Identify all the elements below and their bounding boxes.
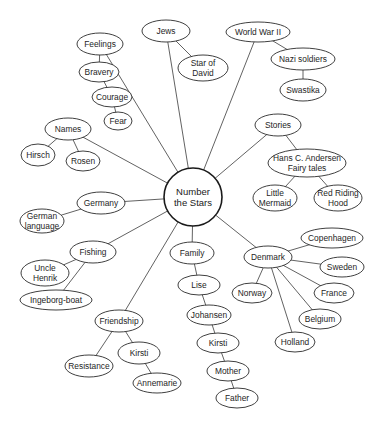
node-kirsti-friend: Kirsti [118,342,160,364]
node-bravery: Bravery [79,62,119,82]
node-norway: Norway [232,283,272,303]
node-label: France [321,288,347,298]
node-label: Annemarie [137,378,178,388]
node-family: Family [170,242,214,264]
node-label: Hans C. Andersen [273,153,341,163]
node-label: Hood [328,198,348,208]
node-hans-c-andersen: Hans C. AndersenFairy tales [268,149,346,177]
node-label: Nazi soldiers [279,54,327,64]
node-lise: Lise [178,275,220,295]
node-friendship: Friendship [95,310,143,332]
node-courage: Courage [92,87,132,107]
node-copenhagen: Copenhagen [301,228,363,248]
node-star-of-david: Star ofDavid [178,55,228,81]
node-label: Mermaid [259,198,292,208]
node-label: Henrik [33,273,58,283]
center-node: Numberthe Stars [164,168,222,226]
node-label: Family [180,248,205,258]
node-label: language [25,221,60,231]
node-label: Feelings [84,39,116,49]
node-label: Names [55,124,82,134]
node-label: World War II [235,27,281,37]
node-label: Denmark [251,252,286,262]
node-label: Bravery [85,67,115,77]
node-label: Kirsti [130,348,149,358]
diagram-canvas: Numberthe StarsFeelingsBraveryCourageFea… [0,0,381,425]
node-resistance: Resistance [65,355,113,377]
node-label: Rosen [71,156,96,166]
node-label: the Stars [174,197,212,208]
node-germany: Germany [77,192,125,214]
node-label: Holland [281,337,310,347]
node-label: Mother [215,366,241,376]
node-label: Father [225,393,249,403]
node-fear: Fear [104,112,132,130]
node-label: Friendship [99,316,138,326]
node-france: France [314,283,354,303]
node-label: Copenhagen [308,233,356,243]
node-label: Hirsch [26,150,50,160]
node-label: Johansen [191,310,228,320]
node-label: Fear [109,116,126,126]
node-label: Ingeborg-boat [30,295,83,305]
node-label: Norway [238,288,267,298]
node-label: Number [176,186,210,197]
node-label: Star of [191,58,216,68]
node-nazi-soldiers: Nazi soldiers [271,48,335,70]
node-label: Kirsti [209,338,228,348]
node-label: German [27,211,58,221]
node-names: Names [45,118,91,140]
node-sweden: Sweden [320,257,364,277]
node-label: Germany [84,198,119,208]
node-hirsch: Hirsch [21,144,55,166]
node-uncle-henrik: UncleHenrik [21,260,69,286]
node-label: Jews [156,26,175,36]
nodes-layer: Numberthe StarsFeelingsBraveryCourageFea… [20,20,364,408]
concept-web-diagram: Numberthe StarsFeelingsBraveryCourageFea… [0,0,381,425]
node-kirsti-family: Kirsti [197,333,239,353]
node-german-language: Germanlanguage [20,209,64,233]
node-annemarie: Annemarie [133,373,181,393]
node-label: Uncle [34,263,56,273]
node-belgium: Belgium [299,309,341,329]
node-father: Father [216,388,258,408]
node-label: Sweden [327,262,358,272]
node-swastika: Swastika [280,79,326,101]
node-fishing: Fishing [70,241,116,263]
node-rosen: Rosen [66,151,100,171]
node-world-war-ii: World War II [226,22,290,42]
node-johansen: Johansen [187,305,231,325]
node-label: Stories [265,120,291,130]
node-little-mermaid: LittleMermaid [253,185,297,211]
node-red-riding-hood: Red RidingHood [314,185,362,211]
node-label: Fairy tales [288,163,327,173]
node-label: Lise [191,280,207,290]
node-label: David [192,68,214,78]
node-jews: Jews [142,20,190,42]
node-label: Fishing [80,247,107,257]
node-stories: Stories [255,114,301,136]
node-mother: Mother [207,361,249,381]
node-label: Belgium [305,314,335,324]
node-holland: Holland [275,332,315,352]
node-feelings: Feelings [77,33,123,55]
node-label: Red Riding [317,188,359,198]
node-label: Swastika [286,85,320,95]
node-ingeborg-boat: Ingeborg-boat [20,290,92,310]
node-denmark: Denmark [244,246,292,268]
node-label: Little [266,188,284,198]
node-label: Resistance [68,361,110,371]
node-label: Courage [96,92,128,102]
